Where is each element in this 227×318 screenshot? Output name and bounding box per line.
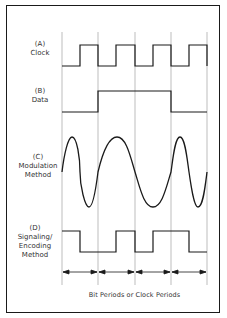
label-encoding-line2: Encoding — [5, 242, 65, 251]
caption-bit-periods: Bit Periods or Clock Periods — [62, 291, 207, 299]
label-clock-tag: (A) — [10, 40, 70, 49]
encoding-waveform — [62, 231, 207, 252]
label-data: (B) Data — [10, 87, 70, 105]
modulation-waveform — [62, 137, 207, 207]
label-encoding-line3: Method — [5, 251, 65, 260]
label-encoding-tag: (D) — [5, 224, 65, 233]
label-modulation-line2: Method — [8, 171, 68, 180]
clock-waveform — [62, 45, 207, 66]
data-waveform — [62, 91, 207, 112]
label-clock-text: Clock — [10, 49, 70, 58]
label-data-text: Data — [10, 96, 70, 105]
bit-period-arrows — [63, 270, 206, 274]
label-modulation: (C) Modulation Method — [8, 153, 68, 180]
label-data-tag: (B) — [10, 87, 70, 96]
label-modulation-line1: Modulation — [8, 162, 68, 171]
label-encoding-line1: Signaling/ — [5, 233, 65, 242]
label-modulation-tag: (C) — [8, 153, 68, 162]
label-encoding: (D) Signaling/ Encoding Method — [5, 224, 65, 260]
label-clock: (A) Clock — [10, 40, 70, 58]
